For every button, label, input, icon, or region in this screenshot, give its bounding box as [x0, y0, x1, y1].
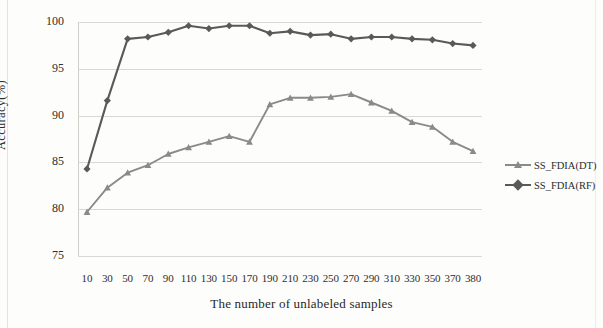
plot-area [78, 22, 482, 256]
legend-item-label: SS_FDIA(RF) [534, 180, 595, 191]
legend-item-SS_FDIA(DT)[interactable]: SS_FDIA(DT) [505, 155, 600, 175]
chart-legend: SS_FDIA(DT)SS_FDIA(RF) [505, 155, 600, 195]
data-point [368, 33, 375, 40]
data-point [266, 30, 273, 37]
legend-swatch-icon [505, 159, 531, 171]
data-point [388, 33, 395, 40]
series-line-SS_FDIA(DT) [87, 94, 473, 212]
series-line-SS_FDIA(RF) [87, 26, 473, 169]
data-point [83, 165, 90, 172]
series-SS_FDIA(RF) [83, 22, 476, 172]
y-tick-label-75: 75 [28, 250, 64, 260]
x-tick-label-380: 380 [459, 272, 487, 284]
legend-item-label: SS_FDIA(DT) [534, 160, 596, 171]
legend-item-SS_FDIA(RF)[interactable]: SS_FDIA(RF) [505, 175, 600, 195]
data-point [408, 35, 415, 42]
chart-figure: Accuracy(%) 7580859095100 10305070901101… [0, 0, 603, 328]
y-tick-label-85: 85 [28, 156, 64, 166]
data-point [104, 97, 111, 104]
legend-swatch-icon [505, 179, 531, 191]
y-tick-label-90: 90 [28, 110, 64, 120]
data-point [469, 42, 476, 49]
data-point [185, 22, 192, 29]
data-point [165, 29, 172, 36]
x-axis-title: The number of unlabeled samples [0, 296, 603, 312]
y-tick-label-95: 95 [28, 63, 64, 73]
x-axis-tick-labels: 1030507090110130150170190210230250270290… [0, 272, 603, 290]
data-point [287, 28, 294, 35]
data-point [449, 40, 456, 47]
series-SS_FDIA(DT) [84, 91, 477, 215]
data-point [124, 35, 131, 42]
data-point [246, 22, 253, 29]
data-point [205, 25, 212, 32]
data-point [226, 22, 233, 29]
y-tick-label-80: 80 [28, 203, 64, 213]
data-point [348, 35, 355, 42]
data-series-layer [78, 22, 482, 256]
data-point [429, 36, 436, 43]
y-tick-label-100: 100 [28, 16, 64, 26]
data-point [327, 31, 334, 38]
data-point [144, 33, 151, 40]
data-point [307, 32, 314, 39]
gridline-75 [78, 256, 482, 257]
